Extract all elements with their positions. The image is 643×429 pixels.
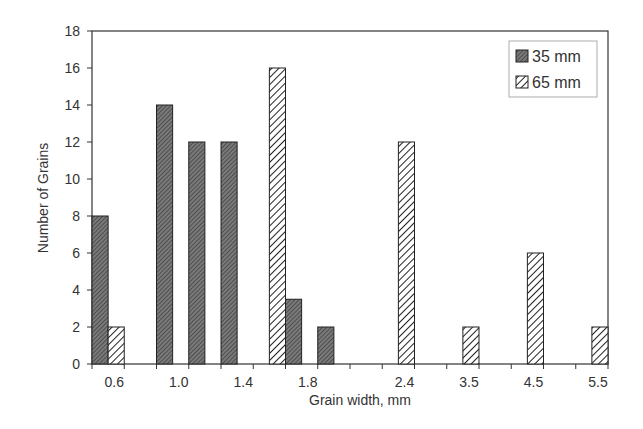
y-tick-label: 6	[72, 245, 80, 261]
bar-65mm	[269, 68, 285, 364]
bar-65mm	[463, 327, 479, 364]
legend-swatch-35mm	[516, 50, 528, 62]
x-tick-label: 3.5	[459, 374, 479, 390]
y-tick-label: 2	[72, 319, 80, 335]
y-tick-label: 4	[72, 282, 80, 298]
bar-chart: 024681012141618 0.61.01.41.82.43.54.55.5…	[0, 0, 643, 429]
bar-65mm	[592, 327, 608, 364]
x-tick-label: 2.4	[395, 374, 415, 390]
x-tick-label: 0.6	[105, 374, 125, 390]
x-axis: 0.61.01.41.82.43.54.55.5	[92, 364, 608, 390]
bar-35mm	[157, 105, 173, 364]
legend-label-65mm: 65 mm	[532, 74, 581, 91]
y-tick-label: 12	[64, 134, 80, 150]
legend: 35 mm 65 mm	[509, 41, 597, 97]
x-tick-label: 1.8	[298, 374, 318, 390]
bar-35mm	[189, 142, 205, 364]
bar-35mm	[318, 327, 334, 364]
x-tick-label: 4.5	[524, 374, 544, 390]
bar-35mm	[286, 299, 302, 364]
x-tick-label: 5.5	[588, 374, 608, 390]
x-axis-title: Grain width, mm	[309, 392, 411, 408]
y-tick-label: 10	[64, 171, 80, 187]
y-tick-label: 8	[72, 208, 80, 224]
bar-65mm	[398, 142, 414, 364]
bar-35mm	[221, 142, 237, 364]
y-tick-label: 18	[64, 23, 80, 39]
y-axis: 024681012141618	[64, 23, 92, 372]
bar-65mm	[527, 253, 543, 364]
legend-swatch-65mm	[516, 76, 528, 88]
y-tick-label: 14	[64, 97, 80, 113]
x-tick-label: 1.4	[234, 374, 254, 390]
y-tick-label: 16	[64, 60, 80, 76]
x-tick-label: 1.0	[169, 374, 189, 390]
legend-label-35mm: 35 mm	[532, 48, 581, 65]
y-tick-label: 0	[72, 356, 80, 372]
y-axis-title: Number of Grains	[35, 143, 51, 253]
bar-35mm	[92, 216, 108, 364]
bar-65mm	[108, 327, 124, 364]
